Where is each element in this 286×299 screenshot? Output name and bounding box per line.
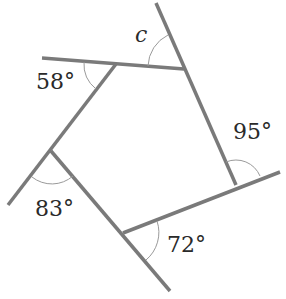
angle-label-72: 72°	[167, 234, 206, 256]
angle-label-83: 83°	[35, 198, 74, 220]
angle-label-95: 95°	[233, 121, 272, 143]
side-right	[156, 3, 236, 185]
pentagon-exterior-angles-diagram: c 95° 72° 83° 58°	[0, 0, 286, 299]
angle-label-58: 58°	[36, 71, 75, 93]
arc-angle-83	[32, 176, 73, 184]
side-bottom-right	[123, 172, 280, 233]
arc-angle-72	[146, 221, 159, 260]
arc-angle-58	[84, 62, 96, 89]
arc-angle-c	[148, 35, 168, 66]
angle-label-c: c	[135, 24, 147, 46]
